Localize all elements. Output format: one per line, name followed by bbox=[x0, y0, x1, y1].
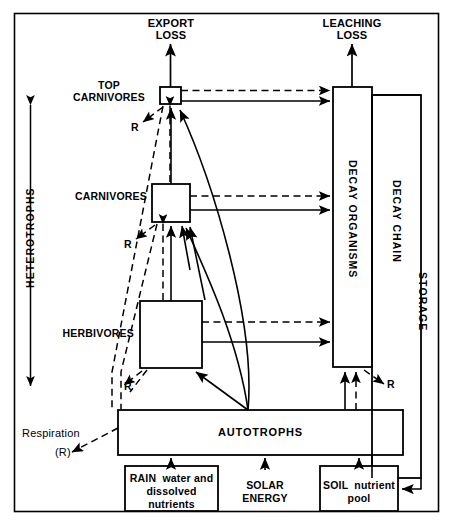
autotrophs-label: AUTOTROPHS bbox=[118, 426, 403, 438]
autotrophs-fan-to-carnivores bbox=[190, 227, 205, 300]
autotrophs-to-herbivores-arrow bbox=[196, 372, 248, 410]
decay-organisms-label: DECAY ORGANISMS bbox=[346, 160, 358, 278]
decay-respiration-arrow bbox=[364, 370, 384, 384]
top-carnivores-label: TOP CARNIVORES bbox=[63, 80, 155, 104]
respiration-label: Respiration bbox=[22, 427, 80, 439]
respiration-mark-decay: R bbox=[387, 379, 395, 391]
rain-label: RAIN water and dissolved nutrients bbox=[125, 472, 218, 511]
soil-label: SOIL nutrient pool bbox=[320, 479, 398, 505]
carnivores-box bbox=[152, 184, 190, 222]
decay-chain-label: DECAY CHAIN bbox=[390, 180, 402, 263]
carnivores-label: CARNIVORES bbox=[63, 191, 147, 203]
diagram-canvas: EXPORT LOSS LEACHING LOSS TOP CARNIVORES… bbox=[0, 0, 453, 526]
top-carnivores-box bbox=[160, 87, 181, 104]
export-loss-label: EXPORT LOSS bbox=[136, 17, 206, 42]
respiration-symbol-label: (R) bbox=[55, 446, 71, 458]
leaching-loss-label: LEACHING LOSS bbox=[316, 17, 388, 42]
respiration-mark-carnivores: R bbox=[124, 239, 132, 251]
storage-axis-label: STORAGE bbox=[416, 272, 428, 331]
decay-chain-to-soil-arrow bbox=[402, 478, 421, 489]
heterotrophs-axis-label: HETEROTROPHS bbox=[25, 187, 37, 288]
herbivores-box bbox=[140, 301, 202, 368]
solar-energy-label: SOLAR ENERGY bbox=[230, 479, 300, 505]
herbivores-label: HERBIVORES bbox=[48, 328, 134, 340]
respiration-mark-herbivores: R bbox=[124, 381, 132, 393]
respiration-mark-topcarnivores: R bbox=[131, 122, 139, 134]
